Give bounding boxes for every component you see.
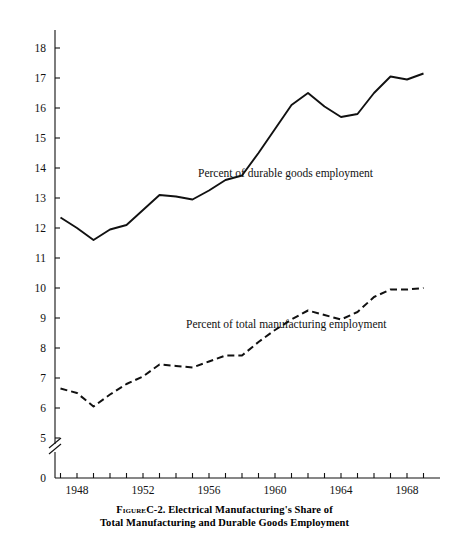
caption-figure-word: Figure bbox=[116, 504, 146, 515]
chart-canvas: 056789101112131415161718 194819521956196… bbox=[0, 0, 449, 535]
x-tick-label: 1952 bbox=[132, 484, 155, 496]
series-annotation-2: Percent of total manufacturing employmen… bbox=[186, 318, 387, 331]
y-tick-label: 15 bbox=[35, 132, 47, 144]
caption-line-1-text: C-2. Electrical Manufacturing's Share of bbox=[146, 504, 333, 515]
y-tick-label: 14 bbox=[35, 162, 47, 174]
y-tick-label: 8 bbox=[40, 342, 46, 354]
series-annotations: Percent of durable goods employmentPerce… bbox=[186, 167, 387, 331]
x-tick-label: 1960 bbox=[264, 484, 287, 496]
caption-line-2: Total Manufacturing and Durable Goods Em… bbox=[0, 516, 449, 529]
x-tick-label: 1964 bbox=[330, 484, 353, 496]
figure-caption: FigureC-2. Electrical Manufacturing's Sh… bbox=[0, 503, 449, 529]
y-tick-label: 7 bbox=[40, 372, 46, 384]
y-tick-label: 10 bbox=[35, 282, 47, 294]
y-tick-label: 11 bbox=[35, 252, 46, 264]
y-tick-label: 17 bbox=[35, 72, 47, 84]
x-tick-label: 1968 bbox=[396, 484, 419, 496]
x-tick-label: 1948 bbox=[66, 484, 89, 496]
y-tick-label: 18 bbox=[35, 42, 47, 54]
x-axis: 194819521956196019641968 bbox=[55, 473, 440, 496]
y-tick-label: 0 bbox=[40, 472, 46, 484]
caption-line-1: FigureC-2. Electrical Manufacturing's Sh… bbox=[0, 503, 449, 516]
y-tick-label: 6 bbox=[40, 402, 46, 414]
y-tick-label: 9 bbox=[40, 312, 46, 324]
y-tick-label: 13 bbox=[35, 192, 47, 204]
y-axis: 056789101112131415161718 bbox=[35, 30, 62, 484]
y-tick-label: 5 bbox=[40, 432, 46, 444]
x-tick-label: 1956 bbox=[198, 484, 221, 496]
y-tick-label: 12 bbox=[35, 222, 47, 234]
data-series-lines bbox=[61, 74, 424, 407]
series-line-1 bbox=[61, 74, 424, 241]
series-line-2 bbox=[61, 288, 424, 407]
figure-container: 056789101112131415161718 194819521956196… bbox=[0, 0, 449, 535]
y-tick-label: 16 bbox=[35, 102, 47, 114]
series-annotation-1: Percent of durable goods employment bbox=[198, 167, 374, 180]
